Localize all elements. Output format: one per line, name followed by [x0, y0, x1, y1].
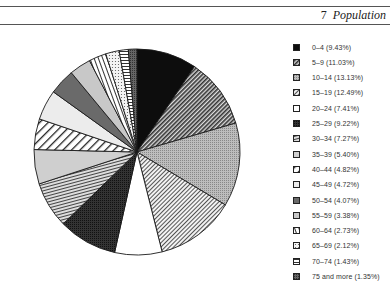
legend-swatch-icon [293, 120, 300, 127]
legend-label: 5–9 (11.03%) [312, 59, 355, 66]
legend-item: 40–44 (4.82%) [293, 164, 359, 174]
legend-label: 25–29 (9.22%) [312, 120, 359, 127]
legend-label: 30–34 (7.27%) [312, 135, 359, 142]
legend-item: 45–49 (4.72%) [293, 180, 359, 190]
legend-item: 75 and more (1.35%) [293, 272, 380, 282]
legend-swatch-icon [293, 258, 300, 265]
legend-item: 15–19 (12.49%) [293, 88, 363, 98]
legend-swatch-icon [293, 44, 300, 51]
legend-swatch-icon [293, 59, 300, 66]
legend-swatch-icon [293, 181, 300, 188]
legend-label: 75 and more (1.35%) [312, 273, 380, 280]
legend-swatch-icon [293, 227, 300, 234]
legend-swatch-icon [293, 212, 300, 219]
legend-item: 70–74 (1.43%) [293, 256, 359, 266]
legend-item: 55–59 (3.38%) [293, 210, 359, 220]
legend-swatch-icon [293, 166, 300, 173]
legend-label: 40–44 (4.82%) [312, 166, 359, 173]
legend-label: 65–69 (2.12%) [312, 242, 359, 249]
legend-swatch-icon [293, 242, 300, 249]
pie-slices [34, 49, 240, 255]
legend-label: 70–74 (1.43%) [312, 258, 359, 265]
legend-swatch-icon [293, 105, 300, 112]
legend-label: 50–54 (4.07%) [312, 197, 359, 204]
legend-item: 65–69 (2.12%) [293, 241, 359, 251]
legend-item: 25–29 (9.22%) [293, 119, 359, 129]
legend-swatch-icon [293, 135, 300, 142]
legend-item: 20–24 (7.41%) [293, 103, 359, 113]
legend-label: 55–59 (3.38%) [312, 212, 359, 219]
legend-item: 60–64 (2.73%) [293, 226, 359, 236]
legend-label: 0–4 (9.43%) [312, 44, 351, 51]
legend-item: 30–34 (7.27%) [293, 134, 359, 144]
legend-label: 10–14 (13.13%) [312, 74, 363, 81]
legend-swatch-icon [293, 273, 300, 280]
legend-item: 50–54 (4.07%) [293, 195, 359, 205]
legend-label: 35–39 (5.40%) [312, 151, 359, 158]
legend-item: 35–39 (5.40%) [293, 149, 359, 159]
legend-label: 20–24 (7.41%) [312, 105, 359, 112]
legend-item: 10–14 (13.13%) [293, 73, 363, 83]
legend-item: 0–4 (9.43%) [293, 42, 351, 52]
legend-swatch-icon [293, 89, 300, 96]
legend-label: 60–64 (2.73%) [312, 227, 359, 234]
legend-item: 5–9 (11.03%) [293, 57, 355, 67]
legend-label: 15–19 (12.49%) [312, 89, 363, 96]
legend-swatch-icon [293, 74, 300, 81]
legend-label: 45–49 (4.72%) [312, 181, 359, 188]
legend-swatch-icon [293, 197, 300, 204]
legend-swatch-icon [293, 151, 300, 158]
